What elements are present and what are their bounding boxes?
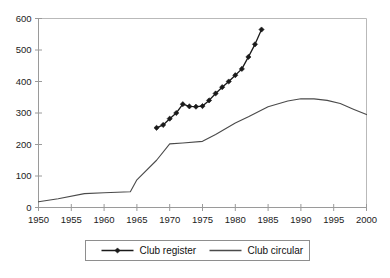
axes-group <box>35 19 367 212</box>
x-tick-label-1950: 1950 <box>28 214 49 225</box>
x-tick-label-1970: 1970 <box>159 214 180 225</box>
x-tick-label-1980: 1980 <box>225 214 246 225</box>
data-point-club-register-11-15[interactable] <box>252 42 257 47</box>
series-group <box>39 27 367 202</box>
series-line-club-register <box>157 30 262 128</box>
line-chart: 0100200300400500600195019551960196519701… <box>0 0 390 278</box>
y-tick-label-200: 200 <box>16 139 32 150</box>
data-point-club-register-11-0[interactable] <box>154 125 159 130</box>
x-tick-label-1965: 1965 <box>126 214 147 225</box>
y-tick-label-500: 500 <box>16 44 32 55</box>
y-tick-label-400: 400 <box>16 76 32 87</box>
x-tick-label-1955: 1955 <box>61 214 82 225</box>
legend-label-club-register: Club register <box>140 245 197 256</box>
x-tick-label-1995: 1995 <box>323 214 344 225</box>
data-point-club-register-11-14[interactable] <box>246 54 251 59</box>
x-tick-label-1975: 1975 <box>192 214 213 225</box>
y-tick-label-0: 0 <box>26 202 31 213</box>
x-tick-label-1985: 1985 <box>258 214 279 225</box>
x-tick-label-2000: 2000 <box>356 214 377 225</box>
chart-legend: Club registerClub circular <box>86 241 310 261</box>
chart-container: 0100200300400500600195019551960196519701… <box>0 0 390 278</box>
tick-labels-group: 0100200300400500600195019551960196519701… <box>16 13 377 225</box>
data-point-club-register-11-5[interactable] <box>187 104 192 109</box>
data-point-club-register-11-6[interactable] <box>193 104 198 109</box>
y-tick-label-300: 300 <box>16 107 32 118</box>
y-tick-label-600: 600 <box>16 13 32 24</box>
legend-label-club-circular: Club circular <box>248 245 304 256</box>
series-line-club-circular <box>39 99 367 202</box>
x-tick-label-1990: 1990 <box>290 214 311 225</box>
y-tick-label-100: 100 <box>16 170 32 181</box>
data-point-club-register-11-16[interactable] <box>259 27 264 32</box>
x-tick-label-1960: 1960 <box>94 214 115 225</box>
